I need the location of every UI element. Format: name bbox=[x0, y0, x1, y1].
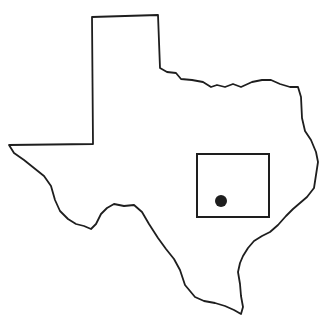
texas-outline bbox=[9, 15, 318, 314]
location-marker bbox=[215, 195, 227, 207]
texas-locator-map bbox=[0, 0, 327, 324]
map-canvas bbox=[0, 0, 327, 324]
inset-box bbox=[197, 154, 269, 217]
